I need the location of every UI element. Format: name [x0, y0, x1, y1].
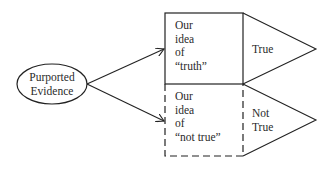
truth-line2: idea	[175, 33, 207, 47]
not-true-line2: idea	[175, 104, 221, 118]
not-true-outcome-line1: Not	[252, 107, 273, 121]
truth-line1: Our	[175, 19, 207, 33]
true-outcome-line1: True	[252, 43, 273, 57]
source-label-line2: Evidence	[20, 85, 84, 99]
truth-line3: of	[175, 46, 207, 60]
source-node-label: Purported Evidence	[20, 71, 84, 98]
not-true-line1: Our	[175, 90, 221, 104]
arrow-to-truth	[87, 49, 164, 84]
source-label-line1: Purported	[20, 71, 84, 85]
truth-box-label: Our idea of “truth”	[175, 19, 207, 73]
not-true-outcome-label: Not True	[252, 107, 273, 134]
not-true-outcome-line2: True	[252, 121, 273, 135]
arrow-to-not-true	[87, 84, 164, 121]
not-true-line3: of	[175, 117, 221, 131]
not-true-box-label: Our idea of “not true”	[175, 90, 221, 144]
truth-line4: “truth”	[175, 60, 207, 74]
not-true-line4: “not true”	[175, 131, 221, 145]
true-outcome-label: True	[252, 43, 273, 57]
